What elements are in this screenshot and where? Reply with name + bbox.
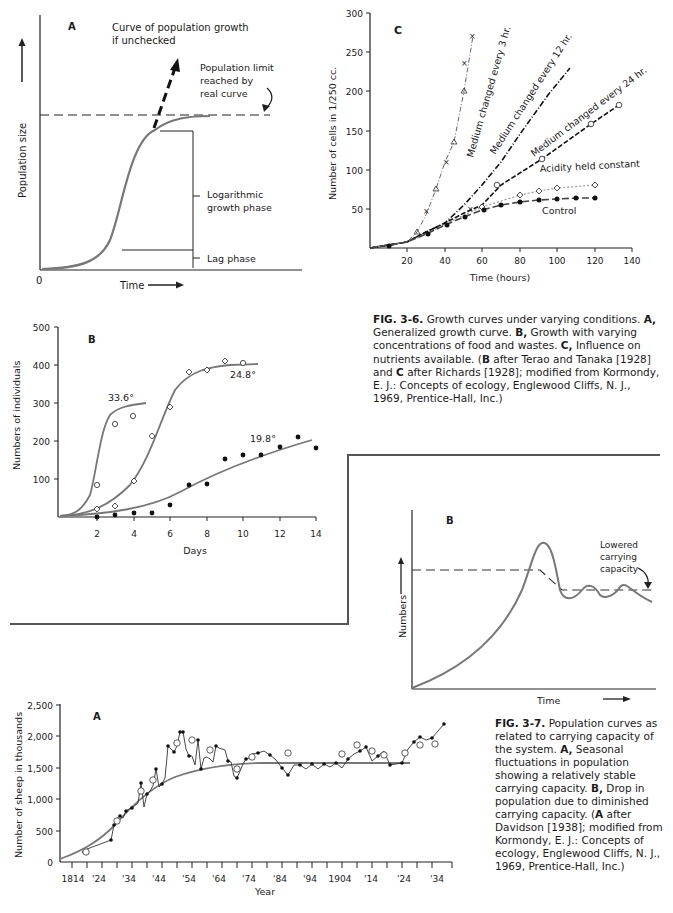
svg-text:2,500: 2,500 xyxy=(27,701,53,711)
x-axis-label: Time xyxy=(536,695,560,705)
svg-text:'14: '14 xyxy=(364,874,378,884)
y-axis-label: Number of cells in 1/250 cc. xyxy=(327,67,338,200)
y-axis-label: Number of sheep in thousands xyxy=(13,712,24,858)
panel-label: B xyxy=(88,334,96,345)
annotation-limit: Population limit reached by real curve xyxy=(200,62,277,99)
svg-text:'24: '24 xyxy=(397,874,411,884)
svg-text:40: 40 xyxy=(439,256,451,266)
svg-text:500: 500 xyxy=(33,323,50,333)
series-label-24-8: 24.8° xyxy=(230,369,256,380)
svg-text:'94: '94 xyxy=(303,874,317,884)
svg-text:50: 50 xyxy=(352,205,364,215)
svg-text:4: 4 xyxy=(131,529,137,539)
panel-label: A xyxy=(93,711,101,722)
svg-text:6: 6 xyxy=(167,529,173,539)
origin-label: 0 xyxy=(36,275,42,286)
svg-text:1904: 1904 xyxy=(329,874,352,884)
series-label-33-6: 33.6° xyxy=(108,392,134,403)
y-axis-label: Numbers xyxy=(397,595,408,638)
panel-label: C xyxy=(394,24,402,37)
svg-text:300: 300 xyxy=(33,399,50,409)
chart-3-7a: 2,500 2,000 1,500 1,000 500 0 1814 '24 '… xyxy=(0,690,480,913)
svg-text:500: 500 xyxy=(36,827,53,837)
annotation-unchecked: Curve of population growth if unchecked xyxy=(112,22,252,46)
svg-text:8: 8 xyxy=(204,529,210,539)
x-axis-label: Year xyxy=(254,886,275,897)
svg-text:10: 10 xyxy=(237,529,249,539)
curved-arrow-icon xyxy=(266,88,272,108)
svg-text:'74: '74 xyxy=(242,874,256,884)
annotation-log-phase: Logarithmic growth phase xyxy=(207,189,272,213)
y-axis-label: Numbers of individuals xyxy=(11,361,22,470)
panel-label: B xyxy=(446,515,454,526)
svg-text:120: 120 xyxy=(586,256,603,266)
svg-text:0: 0 xyxy=(47,858,53,868)
svg-text:20: 20 xyxy=(401,256,413,266)
svg-text:×: × xyxy=(443,158,450,167)
divider-bottom xyxy=(10,623,349,625)
x-minor-ticks xyxy=(72,862,452,868)
svg-text:×: × xyxy=(469,32,476,41)
svg-text:60: 60 xyxy=(476,256,488,266)
figure-3-7-caption: FIG. 3-7. Population curves as related t… xyxy=(495,717,667,873)
svg-text:100: 100 xyxy=(33,475,50,485)
svg-text:250: 250 xyxy=(346,48,363,58)
divider-vertical xyxy=(347,454,349,625)
annotation-lag-phase: Lag phase xyxy=(207,253,256,264)
svg-text:400: 400 xyxy=(33,361,50,371)
svg-text:'24: '24 xyxy=(92,874,106,884)
x-axis-label: Time xyxy=(119,280,144,291)
svg-text:'84: '84 xyxy=(273,874,287,884)
svg-text:'44: '44 xyxy=(152,874,166,884)
svg-text:100: 100 xyxy=(346,166,363,176)
svg-text:×: × xyxy=(461,59,468,68)
series-label-19-8: 19.8° xyxy=(250,433,276,444)
svg-text:200: 200 xyxy=(346,87,363,97)
svg-text:2: 2 xyxy=(94,529,100,539)
svg-text:×: × xyxy=(423,207,430,216)
svg-text:200: 200 xyxy=(33,437,50,447)
chart-3-6c: 300 250 200 150 100 50 20 40 60 80 100 1… xyxy=(310,0,673,300)
svg-text:12: 12 xyxy=(274,529,285,539)
chart-3-6b: 500 400 300 200 100 2 4 6 8 10 12 14 Day… xyxy=(0,310,340,570)
chart-3-6a: A Population size 0 Time Curve of popula… xyxy=(0,0,310,300)
series-label-control: Control xyxy=(542,205,576,216)
svg-text:1,500: 1,500 xyxy=(27,764,53,774)
panel-label: A xyxy=(68,21,76,32)
svg-text:150: 150 xyxy=(346,127,363,137)
svg-text:140: 140 xyxy=(623,256,640,266)
svg-text:'54: '54 xyxy=(182,874,196,884)
svg-text:'34: '34 xyxy=(122,874,136,884)
svg-text:14: 14 xyxy=(310,529,322,539)
svg-text:'34: '34 xyxy=(430,874,444,884)
svg-text:1814: 1814 xyxy=(62,874,85,884)
x-axis-label: Time (hours) xyxy=(469,272,530,283)
y-axis-label: Population size xyxy=(17,123,28,198)
annotation-lowered-capacity: Lowered carrying capacity xyxy=(600,540,641,574)
chart-3-7b: B Numbers Time Lowered carrying capacity xyxy=(390,490,673,705)
svg-text:2,000: 2,000 xyxy=(27,732,53,742)
svg-text:300: 300 xyxy=(346,9,363,19)
svg-text:1,000: 1,000 xyxy=(27,795,53,805)
x-ticks: 20 40 60 80 100 120 140 xyxy=(401,248,641,266)
figure-3-6-caption: FIG. 3-6. Growth curves under varying co… xyxy=(373,313,663,405)
svg-text:'64: '64 xyxy=(212,874,226,884)
divider-top xyxy=(347,454,660,456)
svg-text:100: 100 xyxy=(548,256,565,266)
x-axis-label: Days xyxy=(183,545,207,556)
series-label-acidity: Acidity held constant xyxy=(540,158,641,174)
svg-text:80: 80 xyxy=(514,256,526,266)
y-ticks: 300 250 200 150 100 50 xyxy=(346,9,370,215)
